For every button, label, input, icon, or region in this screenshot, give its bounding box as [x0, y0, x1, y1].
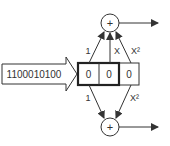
bottom-adder-plus-icon: +	[107, 121, 113, 133]
top-adder: + 1 X X²	[85, 14, 158, 63]
bottom-adder: + 1 X²	[85, 85, 158, 136]
input-sequence-label: 1100010100	[7, 69, 62, 80]
input-arrow: 1100010100	[2, 57, 77, 91]
top-tap-x2-label: X²	[131, 46, 140, 56]
shift-register: 0 0 0	[78, 63, 139, 85]
top-tap-x-label: X	[114, 46, 120, 56]
register-cell-3-value: 0	[126, 69, 132, 80]
bottom-tap-x2-arrow	[116, 85, 131, 118]
top-tap-1-arrow	[89, 32, 104, 63]
convolutional-encoder-diagram: 1100010100 0 0 0 + 1 X X² + 1 X²	[0, 0, 170, 146]
register-cell-2-value: 0	[106, 69, 112, 80]
register-cell-1-value: 0	[86, 69, 92, 80]
top-tap-1-label: 1	[85, 46, 90, 56]
bottom-tap-x2-label: X²	[130, 93, 139, 103]
bottom-tap-1-label: 1	[85, 93, 90, 103]
top-adder-plus-icon: +	[107, 17, 113, 29]
bottom-tap-1-arrow	[89, 85, 104, 118]
